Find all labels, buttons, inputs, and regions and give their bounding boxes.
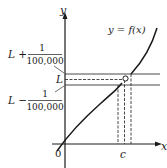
svg-text:L +: L + (7, 48, 27, 60)
upper-bound-label: L + 1 100,000 (7, 43, 64, 66)
point-c-label: c (120, 148, 126, 160)
curve-label: y = f(x) (107, 24, 146, 35)
function-curve (57, 83, 122, 151)
svg-text:L −: L − (7, 94, 27, 106)
open-point-icon (123, 76, 128, 81)
origin-label: 0 (55, 148, 61, 159)
svg-text:100,000: 100,000 (26, 102, 63, 112)
limit-label: L (55, 73, 63, 85)
upper-label-leader (54, 66, 64, 73)
svg-text:1: 1 (42, 89, 48, 99)
x-axis-label: x (161, 140, 167, 153)
lower-label-leader (55, 86, 64, 92)
svg-text:100,000: 100,000 (26, 56, 63, 66)
svg-text:1: 1 (39, 43, 45, 53)
lower-bound-label: L − 1 100,000 (7, 89, 64, 112)
limit-diagram: y x 0 c y = f(x) L + 1 100,000 L L − 1 1… (0, 0, 167, 168)
y-axis-label: y (59, 4, 67, 17)
